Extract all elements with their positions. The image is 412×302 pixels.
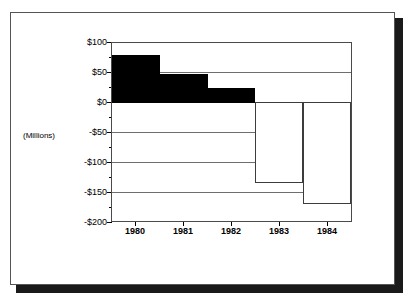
y-tick-label: $50 — [51, 67, 107, 77]
y-tick-label: -$100 — [51, 157, 107, 167]
y-tick-label: -$50 — [51, 127, 107, 137]
y-axis-tick-labels: $100 $50 $0 -$50 -$100 -$150 -$200 — [49, 42, 107, 222]
y-tick-label: -$150 — [51, 187, 107, 197]
bar-1981 — [160, 74, 208, 103]
x-axis-tick-labels: 1980 1981 1982 1983 1984 — [111, 226, 352, 244]
chart-card: (Millions) $100 $50 $0 -$50 -$100 -$150 … — [10, 12, 395, 285]
y-tick-label: -$200 — [51, 217, 107, 227]
bar-1980 — [112, 55, 160, 103]
bar-1983 — [255, 102, 303, 183]
chart-figure: (Millions) $100 $50 $0 -$50 -$100 -$150 … — [0, 0, 412, 302]
bar-1984 — [303, 102, 351, 204]
y-tick-mark — [107, 222, 112, 223]
bar-1982 — [208, 88, 256, 104]
x-tick-label: 1981 — [159, 226, 207, 236]
x-tick-label: 1984 — [303, 226, 351, 236]
y-tick-label: $0 — [51, 97, 107, 107]
x-tick-label: 1983 — [255, 226, 303, 236]
x-tick-label: 1982 — [207, 226, 255, 236]
plot-area — [111, 42, 352, 222]
x-tick-label: 1980 — [111, 226, 159, 236]
plot-wrapper: (Millions) $100 $50 $0 -$50 -$100 -$150 … — [11, 13, 396, 286]
y-tick-label: $100 — [51, 37, 107, 47]
